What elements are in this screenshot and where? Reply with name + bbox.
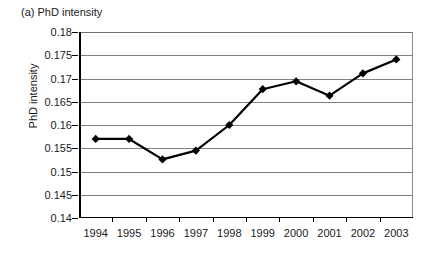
- x-axis-tick-mark: [179, 218, 180, 222]
- y-axis-tick-mark: [72, 102, 78, 103]
- y-axis-tick-mark: [72, 55, 78, 56]
- x-axis-tick-label: 2003: [384, 227, 408, 239]
- y-axis-tick-label: 0.16: [51, 120, 72, 131]
- y-axis-tick-label: 0.145: [44, 189, 72, 200]
- x-axis-tick-mark: [112, 218, 113, 222]
- x-axis-tick-label: 1997: [184, 227, 208, 239]
- x-axis-tick-label: 2001: [317, 227, 341, 239]
- data-point-marker: [392, 55, 400, 63]
- x-axis-tick-mark: [279, 218, 280, 222]
- data-point-marker: [92, 135, 100, 143]
- y-axis-tick-label: 0.165: [44, 96, 72, 107]
- x-axis-tick-mark: [313, 218, 314, 222]
- y-axis-tick-label: 0.17: [51, 73, 72, 84]
- data-point-marker: [292, 77, 300, 85]
- x-axis-tick-label: 1995: [117, 227, 141, 239]
- y-axis-tick-labels: 0.180.1750.170.1650.160.1550.150.1450.14: [14, 32, 72, 218]
- x-axis-tick-mark: [346, 218, 347, 222]
- y-axis-tick-label: 0.18: [51, 27, 72, 38]
- y-axis-tick-label: 0.175: [44, 50, 72, 61]
- chart-figure: (a) PhD intensity PhD intensity 0.180.17…: [0, 0, 427, 257]
- plot-area: [79, 32, 413, 218]
- data-line: [96, 59, 397, 159]
- y-axis-tick-mark: [72, 172, 78, 173]
- x-axis-tick-labels: 1994199519961997199819992000200120022003: [79, 227, 413, 243]
- x-axis-tick-label: 1994: [83, 227, 107, 239]
- y-axis-tick-label: 0.14: [51, 213, 72, 224]
- x-axis-tick-label: 2000: [284, 227, 308, 239]
- y-axis-tick-mark: [72, 218, 78, 219]
- y-axis-tick-mark: [72, 32, 78, 33]
- y-axis-tick-mark: [72, 195, 78, 196]
- y-axis-tick-mark: [72, 79, 78, 80]
- y-axis-tick-mark: [72, 148, 78, 149]
- x-axis-tick-label: 2002: [351, 227, 375, 239]
- x-axis-tick-mark: [246, 218, 247, 222]
- y-axis-tick-mark: [72, 125, 78, 126]
- x-axis-tick-label: 1996: [150, 227, 174, 239]
- x-axis-tick-mark: [213, 218, 214, 222]
- x-axis-tick-label: 1998: [217, 227, 241, 239]
- series-line-phd-intensity: [79, 32, 413, 218]
- y-axis-tick-label: 0.155: [44, 143, 72, 154]
- y-axis-tick-label: 0.15: [51, 166, 72, 177]
- x-axis-tick-label: 1999: [250, 227, 274, 239]
- panel-caption: (a) PhD intensity: [21, 6, 102, 19]
- x-axis-tick-mark: [380, 218, 381, 222]
- x-axis-tick-mark: [146, 218, 147, 222]
